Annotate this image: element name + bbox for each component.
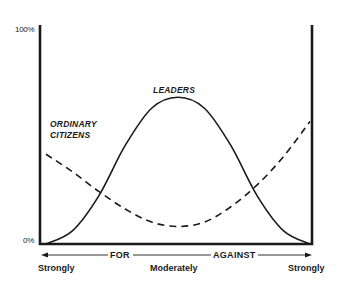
y-tick-100: 100%: [15, 25, 34, 35]
y-tick-0: 0%: [23, 236, 34, 246]
leaders-label: LEADERS: [153, 85, 195, 95]
arrow-right-icon: [305, 253, 312, 258]
chart-canvas: [0, 0, 339, 284]
for-label: FOR: [108, 250, 132, 260]
x-label-strongly-for: Strongly: [38, 263, 75, 273]
citizens-label-line1: ORDINARY: [50, 119, 97, 129]
opinion-distribution-chart: 100% 0% LEADERS ORDINARY CITIZENS FOR AG…: [0, 0, 339, 284]
x-label-moderately: Moderately: [150, 263, 198, 273]
arrow-left-icon: [41, 253, 48, 258]
against-label: AGAINST: [211, 250, 258, 260]
citizens-label-line2: CITIZENS: [50, 130, 90, 140]
x-label-strongly-against: Strongly: [288, 263, 325, 273]
